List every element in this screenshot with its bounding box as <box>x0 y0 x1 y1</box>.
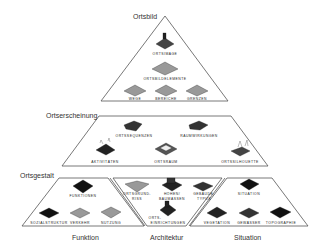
item-label: BAUMASSEN <box>159 197 185 201</box>
grid-terrain-icon <box>155 85 177 96</box>
ground-plan-icon <box>125 181 149 192</box>
function-icon <box>73 180 93 193</box>
building-mass-icon <box>162 178 182 191</box>
silhouette-icon <box>231 140 250 156</box>
item-label: FUNKTIONEN <box>69 194 96 198</box>
item-label: ORTS- <box>149 216 162 220</box>
traffic-icon <box>70 208 90 218</box>
item-label: WEGE <box>129 97 141 101</box>
item-label: RISS <box>132 197 142 201</box>
water-icon <box>239 208 259 218</box>
item-label: SOZIALSTRUKTUR <box>30 221 68 225</box>
item-label: HÖHEN/ <box>164 192 180 196</box>
item-label: ORTSBILDELEMENTE <box>143 77 186 81</box>
grid-terrain-icon <box>186 85 208 96</box>
situation-icon <box>240 179 259 190</box>
item-label: GEWÄSSER <box>237 221 261 225</box>
item-label: GRENZEN <box>187 97 207 101</box>
level-title-ortsbild: Ortsbild <box>133 13 157 20</box>
item-label: GEBÄUDE- <box>193 192 215 196</box>
caption-architektur: Architektur <box>150 234 183 241</box>
social-structure-icon <box>39 208 59 218</box>
item-label: ORTSSEQUENZEN <box>116 134 153 138</box>
building-type-icon <box>193 182 213 191</box>
item-label: NUTZUNG <box>101 221 121 225</box>
caption-funktion: Funktion <box>72 234 99 241</box>
item-label: SITUATION <box>238 192 260 196</box>
item-label: TYPUS <box>197 197 211 201</box>
place-space-icon <box>155 143 177 155</box>
activities-icon <box>96 138 115 155</box>
item-label: BEREICHE <box>155 97 176 101</box>
item-label: ORTSGRUND- <box>123 192 151 196</box>
item-label: ORTSSILHOUETTE <box>221 160 259 164</box>
space-effect-icon <box>189 121 208 130</box>
caption-situation: Situation <box>234 234 261 241</box>
level-title-ortserscheinung: Ortserscheinung <box>46 112 97 119</box>
item-label: ORTSRAUM <box>154 160 177 164</box>
vegetation-icon <box>207 207 227 218</box>
item-label: RAUMWIRKUNGEN <box>180 134 218 138</box>
townscape-icon <box>156 33 174 49</box>
grid-terrain-icon <box>124 85 146 96</box>
topography-icon <box>270 207 291 218</box>
item-label: TOPOGRAPHIE <box>266 221 296 225</box>
pyramid-diagram <box>0 0 330 247</box>
facilities-icon <box>160 201 176 216</box>
grid-terrain-icon <box>152 62 178 75</box>
usage-icon <box>101 207 121 218</box>
item-label: AKTIVITÄTEN <box>91 160 118 164</box>
item-label: ORTSIMAGE <box>153 52 178 56</box>
item-label: VERKEHR <box>70 221 90 225</box>
item-label: VEGETATION <box>204 221 230 225</box>
sequence-icon <box>124 121 142 131</box>
ortserscheinung-trapezoid <box>62 116 268 166</box>
level-title-ortsgestalt: Ortsgestalt <box>20 172 54 179</box>
item-label: EINRICHTUNGEN <box>151 221 186 225</box>
